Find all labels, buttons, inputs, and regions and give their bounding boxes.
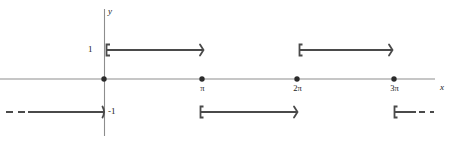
axis-group [0, 9, 435, 136]
y-axis-label: y [108, 7, 112, 16]
segment-4-negative [395, 107, 435, 118]
y-value-label-negative-one: -1 [108, 107, 116, 116]
x-tick-label-2pi: 2π [288, 84, 307, 93]
segment-left-negative [6, 107, 105, 118]
square-wave-figure: y x 1 -1 π 2π 3π [0, 0, 458, 141]
tick-dot-pi [199, 76, 204, 81]
segment-3-positive [300, 45, 393, 56]
tick-dot-3pi [391, 76, 396, 81]
tick-dot-origin [101, 76, 106, 81]
x-axis-label: x [440, 83, 444, 92]
x-tick-label-pi: π [196, 84, 209, 93]
x-tick-label-3pi: 3π [385, 84, 404, 93]
segment-1-positive [107, 45, 204, 56]
y-value-label-one: 1 [88, 45, 93, 54]
plot-canvas [0, 0, 458, 141]
segment-2-negative [201, 107, 298, 118]
tick-dot-2pi [294, 76, 299, 81]
